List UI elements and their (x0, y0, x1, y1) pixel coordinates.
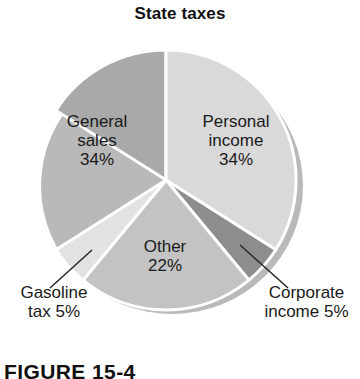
slice-label-corporate-income-line2: income (264, 302, 319, 321)
slice-label-other: Other 22% (122, 237, 208, 275)
slice-label-general-sales-line2: sales (77, 131, 117, 150)
slice-label-personal-income-line2: income (209, 131, 264, 150)
slice-value-personal-income: 34% (180, 150, 292, 169)
slice-label-personal-income-line1: Personal (202, 112, 269, 131)
slice-label-general-sales: General sales 34% (42, 112, 152, 169)
slice-label-personal-income: Personal income 34% (180, 112, 292, 169)
slice-label-gasoline-tax: Gasoline tax 5% (2, 283, 106, 321)
slice-label-corporate-income: Corporate income 5% (253, 283, 360, 321)
slice-value-corporate-income: 5% (324, 302, 349, 321)
slice-label-corporate-income-line1: Corporate (269, 283, 345, 302)
figure-caption: FIGURE 15-4 (4, 360, 136, 379)
slice-value-general-sales: 34% (42, 150, 152, 169)
pie-chart (0, 0, 360, 379)
slice-label-general-sales-line1: General (67, 112, 127, 131)
slice-label-other-line1: Other (144, 237, 187, 256)
figure-container: State taxes General sales 34% Personal i… (0, 0, 360, 379)
slice-value-gasoline-tax: 5% (55, 302, 80, 321)
slice-value-other: 22% (122, 256, 208, 275)
slice-label-gasoline-tax-line2: tax (28, 302, 51, 321)
slice-label-gasoline-tax-line1: Gasoline (20, 283, 87, 302)
